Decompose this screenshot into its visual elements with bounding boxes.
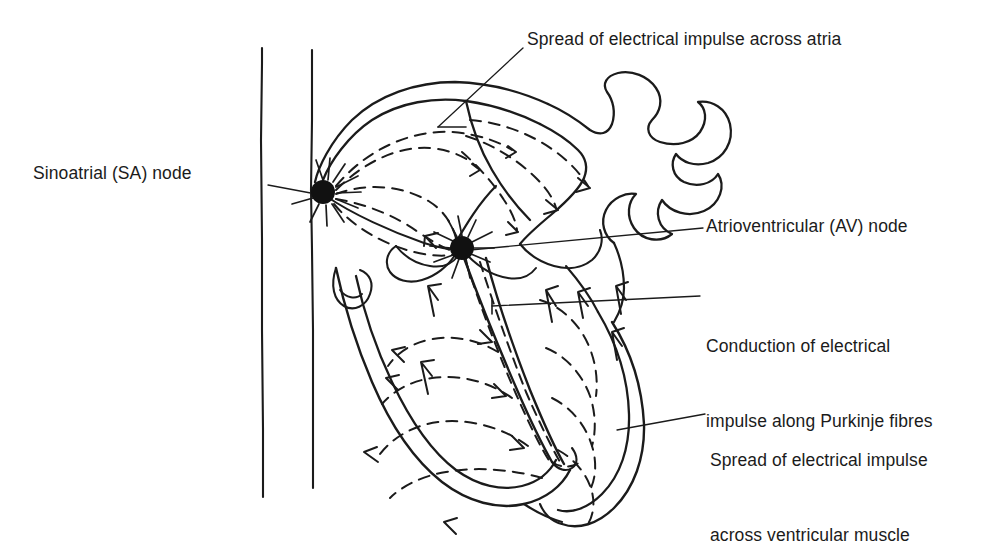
- ventricular-spread-label: Spread of electrical impulse across vent…: [710, 398, 928, 550]
- sa-node-label: Sinoatrial (SA) node: [33, 161, 192, 186]
- right-ventricle-arrowheads: [364, 233, 438, 462]
- purkinje-fibre-dashes: [466, 262, 580, 467]
- av-node[interactable]: [450, 236, 474, 260]
- cardiac-apex: [524, 504, 562, 522]
- ventricular-label-line2: across ventricular muscle: [710, 523, 928, 548]
- purkinje-label-line1: Conduction of electrical: [706, 334, 933, 359]
- right-ventricle-upward-arrows: [421, 284, 457, 534]
- interventricular-septum: [464, 258, 577, 470]
- atrial-spread-label: Spread of electrical impulse across atri…: [527, 27, 841, 52]
- purkinje-leader-line: [492, 296, 700, 306]
- left-ventricle-spread-dashes: [540, 300, 597, 524]
- av-node-leader-line: [470, 228, 703, 250]
- sa-node[interactable]: [311, 180, 335, 204]
- atria-leader-line: [438, 48, 523, 127]
- ventricular-label-line1: Spread of electrical impulse: [710, 448, 928, 473]
- sa-node-leader-line: [268, 185, 316, 194]
- av-node-label: Atrioventricular (AV) node: [706, 214, 908, 239]
- atrial-conduction-dashes: [334, 132, 512, 256]
- right-atrium-outline: [315, 82, 548, 250]
- superior-vena-cava: [261, 48, 313, 497]
